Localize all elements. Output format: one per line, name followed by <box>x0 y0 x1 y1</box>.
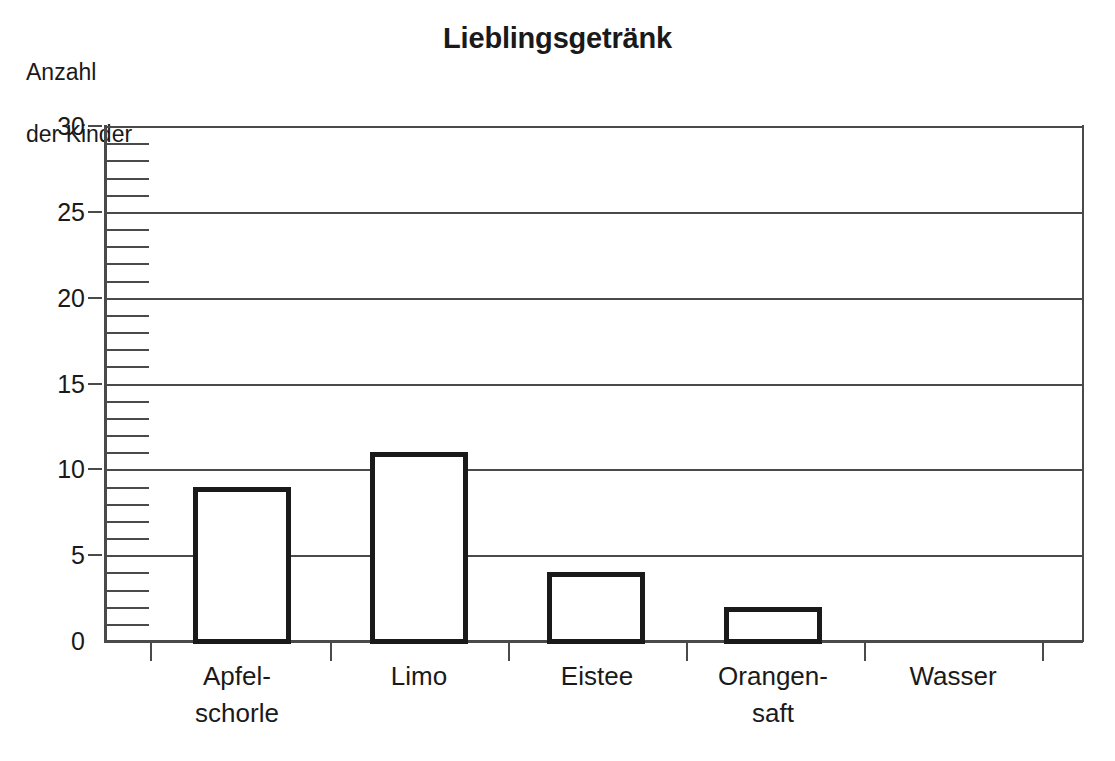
x-label-orangensaft: Orangen- saft <box>683 658 863 732</box>
x-label-orangensaft-line-1: Orangen- <box>683 658 863 695</box>
y-major-tick-25 <box>88 211 102 213</box>
x-label-apfelschorle-line-1: Apfel- <box>147 658 327 695</box>
y-tick-label-5: 5 <box>0 543 85 568</box>
bar-orangensaft[interactable] <box>724 607 822 644</box>
gridline-30 <box>105 126 1083 128</box>
y-minor-tick-28 <box>105 160 149 162</box>
y-major-tick-10 <box>88 468 102 470</box>
y-minor-tick-2 <box>105 607 149 609</box>
x-label-wasser: Wasser <box>863 658 1043 695</box>
y-minor-tick-7 <box>105 521 149 523</box>
y-major-tick-20 <box>88 297 102 299</box>
x-axis-labels: Apfel- schorle Limo Eistee Orangen- saft… <box>105 658 1083 758</box>
y-minor-tick-3 <box>105 590 149 592</box>
y-major-tick-5 <box>88 554 102 556</box>
y-major-tick-15 <box>88 383 102 385</box>
bar-apfelschorle[interactable] <box>193 487 291 645</box>
y-minor-tick-23 <box>105 246 149 248</box>
chart-title: Lieblingsgetränk <box>0 22 1115 55</box>
bar-limo[interactable] <box>370 452 468 644</box>
y-minor-tick-19 <box>105 315 149 317</box>
y-minor-tick-18 <box>105 332 149 334</box>
y-minor-tick-12 <box>105 435 149 437</box>
y-minor-tick-27 <box>105 178 149 180</box>
gridline-10 <box>105 469 1083 471</box>
x-label-limo-line-1: Limo <box>329 658 509 695</box>
y-tick-label-30: 30 <box>0 114 85 139</box>
plot-area <box>105 126 1083 641</box>
y-tick-label-20: 20 <box>0 285 85 310</box>
y-tick-label-0: 0 <box>0 629 85 654</box>
y-minor-tick-26 <box>105 195 149 197</box>
x-label-eistee-line-1: Eistee <box>507 658 687 695</box>
gridline-15 <box>105 384 1083 386</box>
y-minor-tick-14 <box>105 401 149 403</box>
y-minor-tick-24 <box>105 229 149 231</box>
y-tick-label-25: 25 <box>0 199 85 224</box>
bar-eistee[interactable] <box>547 572 645 644</box>
gridline-25 <box>105 212 1083 214</box>
gridline-20 <box>105 298 1083 300</box>
y-minor-tick-21 <box>105 281 149 283</box>
y-minor-tick-22 <box>105 263 149 265</box>
x-label-wasser-line-1: Wasser <box>863 658 1043 695</box>
y-tick-label-15: 15 <box>0 371 85 396</box>
y-minor-tick-8 <box>105 504 149 506</box>
y-axis-tick-labels: 30 25 20 15 10 5 0 <box>0 126 95 641</box>
y-minor-tick-4 <box>105 572 149 574</box>
y-tick-label-10: 10 <box>0 457 85 482</box>
x-label-limo: Limo <box>329 658 509 695</box>
y-major-tick-30 <box>88 125 102 127</box>
y-minor-tick-17 <box>105 349 149 351</box>
x-label-apfelschorle-line-2: schorle <box>147 695 327 732</box>
y-minor-tick-6 <box>105 538 149 540</box>
y-minor-tick-1 <box>105 624 149 626</box>
y-minor-tick-11 <box>105 452 149 454</box>
y-minor-tick-16 <box>105 366 149 368</box>
x-label-eistee: Eistee <box>507 658 687 695</box>
y-axis-label-line-1: Anzahl <box>26 57 132 88</box>
x-label-orangensaft-line-2: saft <box>683 695 863 732</box>
chart-page: Lieblingsgetränk Anzahl der Kinder 30 25… <box>0 0 1115 761</box>
y-minor-tick-13 <box>105 418 149 420</box>
x-label-apfelschorle: Apfel- schorle <box>147 658 327 732</box>
y-minor-tick-29 <box>105 143 149 145</box>
y-minor-tick-9 <box>105 487 149 489</box>
